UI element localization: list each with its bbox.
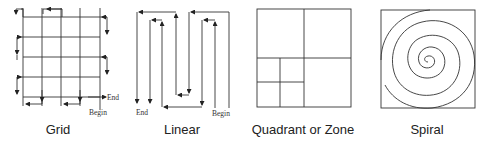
spiral-diagram: Spiral <box>0 0 488 150</box>
spiral-caption: Spiral <box>410 122 443 137</box>
spiral-graphic <box>0 0 488 120</box>
